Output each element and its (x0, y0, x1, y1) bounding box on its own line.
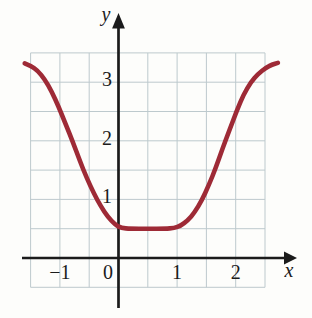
x-tick-label: 1 (172, 261, 182, 283)
grid-lines (31, 53, 265, 287)
x-tick-label: −1 (49, 261, 70, 283)
y-tick-label: 3 (102, 68, 112, 90)
y-tick-label: 1 (102, 185, 112, 207)
x-tick-label: 2 (231, 261, 241, 283)
y-axis-label: y (100, 3, 111, 26)
y-tick-label: 2 (102, 127, 112, 149)
x-axis-label: x (284, 259, 294, 281)
x-tick-label: 0 (103, 261, 113, 283)
curve-path (25, 63, 278, 229)
graph-page: 123−1012 x y (0, 0, 312, 318)
function-curve (25, 63, 278, 229)
y-axis-arrow-icon (112, 13, 125, 29)
function-graph: 123−1012 x y (0, 0, 312, 318)
